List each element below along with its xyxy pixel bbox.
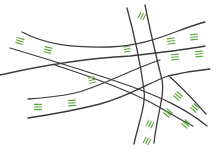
lane-stripe [191, 39, 198, 40]
lane-stripe [196, 54, 203, 55]
lane-stripe [190, 34, 197, 35]
lane-stripe [172, 59, 179, 60]
lane-stripe [191, 37, 198, 38]
lane-stripe [195, 51, 202, 52]
lane-stripe [196, 56, 203, 57]
lane-stripe [171, 54, 178, 55]
road-intersection-diagram [0, 0, 219, 154]
background [0, 0, 219, 154]
lane-stripe [172, 57, 179, 58]
